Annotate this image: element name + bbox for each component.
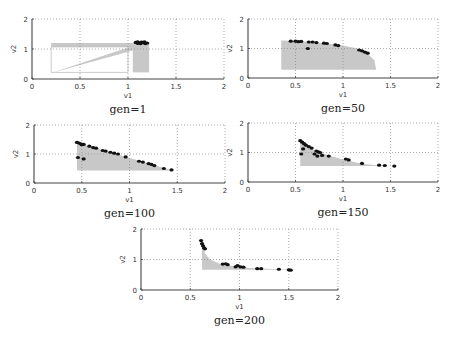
- x-tick-label: 1: [126, 83, 130, 91]
- data-point: [318, 151, 322, 154]
- y-axis-label: v2: [226, 44, 234, 53]
- x-tick-label: 0: [139, 294, 143, 302]
- data-point: [383, 164, 387, 167]
- data-point: [301, 147, 305, 150]
- y-tick-label: 0: [240, 179, 244, 187]
- data-point: [327, 154, 331, 157]
- shaded-region: [51, 46, 133, 73]
- y-tick-label: 1: [240, 149, 244, 157]
- y-axis-label: v2: [12, 150, 20, 159]
- x-axis-label: v1: [124, 92, 133, 100]
- data-point: [360, 162, 364, 165]
- x-tick-label: 1: [127, 187, 131, 195]
- chart-panel-3: 00.511.52012v1v2gen=100: [12, 122, 227, 221]
- x-axis-label: v1: [125, 196, 134, 204]
- data-point: [141, 161, 145, 164]
- data-point: [310, 146, 314, 149]
- y-axis-label: v2: [226, 148, 234, 157]
- y-tick-label: 1: [24, 46, 28, 54]
- data-point: [124, 155, 128, 158]
- x-tick-label: 1: [341, 82, 345, 90]
- chart-caption: gen=200: [214, 314, 265, 327]
- y-tick-label: 0: [24, 76, 28, 84]
- data-point: [277, 268, 281, 271]
- data-point: [392, 164, 396, 167]
- y-tick-label: 2: [240, 120, 244, 128]
- data-point: [199, 239, 203, 242]
- y-tick-label: 2: [240, 16, 244, 24]
- data-point: [104, 150, 108, 153]
- data-point: [306, 47, 310, 50]
- data-point: [315, 154, 319, 157]
- x-tick-label: 1: [341, 186, 345, 194]
- data-point: [299, 152, 303, 155]
- data-point: [152, 164, 156, 167]
- chart-panel-5: 00.511.52012v1v2gen=200: [119, 226, 340, 328]
- chart-caption: gen=1: [110, 103, 147, 116]
- data-point: [87, 145, 91, 148]
- chart-panel-4: 00.511.52012v1v2gen=150: [226, 120, 440, 220]
- x-axis-label: v1: [235, 303, 244, 311]
- data-point: [314, 41, 318, 44]
- y-tick-label: 1: [26, 151, 30, 159]
- y-tick-label: 0: [240, 75, 244, 83]
- data-point: [255, 267, 259, 270]
- y-tick-label: 1: [240, 45, 244, 53]
- x-axis-label: v1: [339, 195, 348, 203]
- x-tick-label: 1.5: [283, 294, 294, 302]
- data-point: [162, 167, 166, 170]
- x-tick-label: 1.5: [172, 187, 183, 195]
- x-tick-label: 0: [32, 187, 36, 195]
- x-tick-label: 1.5: [385, 82, 396, 90]
- x-tick-label: 0.5: [290, 186, 301, 194]
- y-tick-label: 0: [133, 287, 137, 295]
- y-tick-label: 2: [133, 226, 137, 234]
- y-axis-label: v2: [119, 255, 127, 264]
- data-point: [325, 42, 329, 45]
- chart-caption: gen=50: [321, 102, 365, 115]
- y-tick-label: 2: [24, 16, 28, 24]
- x-tick-label: 0.5: [76, 187, 87, 195]
- y-tick-label: 0: [26, 180, 30, 188]
- x-tick-label: 0.5: [290, 82, 301, 90]
- data-point: [241, 266, 245, 269]
- data-point: [347, 158, 351, 161]
- data-point: [366, 52, 370, 55]
- data-point: [311, 40, 315, 43]
- data-point: [336, 44, 340, 47]
- chart-panel-2: 00.511.52012v1v2gen=50: [226, 16, 440, 116]
- x-tick-label: 0: [246, 82, 250, 90]
- x-tick-label: 2: [223, 187, 227, 195]
- x-tick-label: 0.5: [74, 83, 85, 91]
- x-tick-label: 1.5: [385, 186, 396, 194]
- data-point: [307, 40, 311, 43]
- figure: 00.511.52012v1v2gen=100.511.52012v1v2gen…: [0, 0, 455, 344]
- data-point: [226, 263, 230, 266]
- data-point: [136, 42, 140, 45]
- region-outline: [51, 47, 128, 73]
- shaded-region: [202, 241, 301, 270]
- data-point: [108, 151, 112, 154]
- data-point: [112, 152, 116, 155]
- data-point: [259, 267, 263, 270]
- chart-panel-1: 00.511.52012v1v2gen=1: [10, 16, 226, 117]
- chart-caption: gen=100: [104, 207, 155, 220]
- shaded-region: [51, 43, 133, 47]
- y-tick-label: 2: [26, 122, 30, 130]
- y-tick-label: 1: [133, 256, 137, 264]
- x-tick-label: 0: [246, 186, 250, 194]
- data-point: [299, 40, 303, 43]
- data-point: [137, 160, 141, 163]
- x-tick-label: 2: [436, 82, 440, 90]
- data-point: [142, 40, 146, 43]
- x-axis-label: v1: [339, 91, 348, 99]
- x-tick-label: 0: [30, 83, 34, 91]
- x-tick-label: 1: [237, 294, 241, 302]
- chart-caption: gen=150: [318, 206, 369, 219]
- x-tick-label: 2: [336, 294, 340, 302]
- shaded-region: [133, 43, 149, 72]
- data-point: [76, 156, 80, 159]
- data-point: [116, 152, 120, 155]
- data-point: [82, 157, 86, 160]
- data-point: [289, 269, 293, 272]
